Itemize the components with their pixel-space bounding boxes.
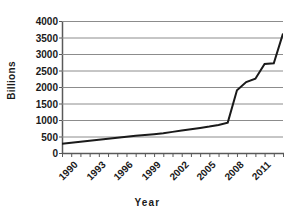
x-axis-tick-labels: 19901993199619992002200520082011	[0, 158, 295, 198]
x-axis-tick-label: 1999	[139, 159, 163, 183]
x-axis-tick-label: 2008	[222, 159, 246, 183]
y-axis-tick-label: 1000	[36, 115, 58, 126]
y-axis-tick-labels: 40003500300025002000150010005000	[20, 15, 60, 155]
x-axis-title: Year	[0, 197, 295, 208]
data-series-line	[62, 34, 283, 144]
x-axis-tick-label: 2011	[250, 159, 273, 182]
y-axis-tick-label: 1500	[36, 98, 58, 109]
y-axis-title-label: Billions	[6, 61, 17, 100]
y-axis-tick-label: 3000	[36, 49, 58, 60]
y-axis-tick-label: 2500	[36, 65, 58, 76]
x-axis-tick-label: 2005	[194, 159, 218, 183]
y-axis-tick-label: 2000	[36, 82, 58, 93]
y-axis-title: Billions	[0, 0, 22, 160]
y-axis-tick-label: 3500	[36, 32, 58, 43]
x-axis-tick-label: 2002	[167, 159, 191, 183]
line-chart: Billions 4000350030002500200015001000500…	[0, 0, 295, 221]
plot-canvas	[62, 21, 283, 153]
x-axis-tick-label: 1993	[84, 159, 108, 183]
gridlines	[62, 22, 283, 138]
x-axis-tick-label: 1996	[112, 159, 136, 183]
x-axis-tick-label: 1990	[56, 159, 80, 183]
y-axis-tick-label: 4000	[36, 16, 58, 27]
y-axis-tick-label: 0	[52, 148, 58, 159]
plot-area	[62, 21, 283, 153]
y-axis-tick-label: 500	[41, 131, 58, 142]
series-polyline	[62, 34, 283, 144]
